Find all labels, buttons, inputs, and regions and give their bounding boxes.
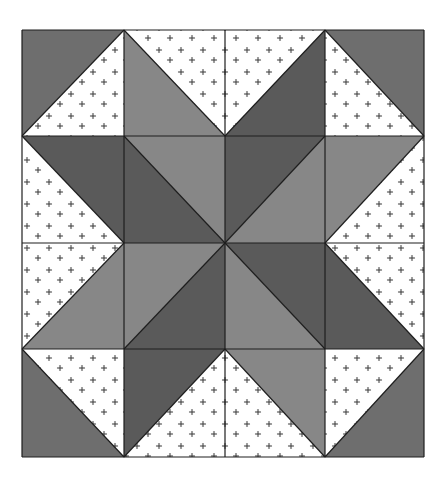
quilt-block	[0, 0, 442, 478]
